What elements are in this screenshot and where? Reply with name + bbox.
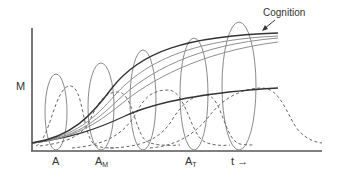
marker-label-am: AM (95, 156, 108, 168)
marker-label-a-text: A (52, 155, 59, 167)
growth-curves (32, 33, 278, 143)
dashed-pulses (36, 86, 322, 148)
marker-label-am-sub: M (102, 161, 108, 168)
window-ellipse-2 (88, 63, 114, 150)
cognition-label: Cognition (263, 8, 305, 18)
cognition-arrow-icon (262, 20, 275, 31)
x-axis-label: t → (231, 156, 248, 167)
marker-label-at: AT (185, 156, 197, 168)
right-arrow-icon: → (237, 155, 248, 167)
cognition-curve (32, 33, 278, 143)
marker-label-at-sub: T (192, 161, 196, 168)
growth-curve-gray-1 (32, 36, 278, 143)
x-axis-label-text: t (231, 155, 234, 167)
dashed-pulse-5 (150, 88, 322, 148)
y-axis-label: M (16, 81, 25, 92)
marker-label-a: A (52, 156, 59, 167)
development-diagram (0, 0, 339, 174)
